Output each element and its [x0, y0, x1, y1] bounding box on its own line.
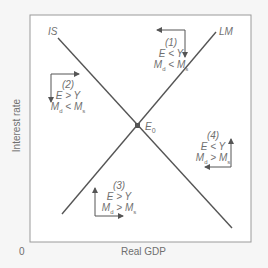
equilibrium-point [135, 123, 140, 128]
region-3-text: (3) E > Y Md > Ms [96, 180, 142, 218]
lm-curve-label: LM [219, 26, 233, 37]
y-axis-label: Interest rate [11, 96, 22, 156]
region-1-text: (1) E < Y Md < Ms [148, 37, 194, 75]
is-curve-label: IS [48, 26, 57, 37]
region-2-text: (2) E > Y Md < Ms [45, 79, 91, 117]
region-4-text: (4) E < Y Md > Ms [190, 130, 236, 168]
origin-label: 0 [19, 246, 25, 257]
equilibrium-label: E0 [145, 121, 156, 134]
x-axis-label: Real GDP [121, 246, 166, 257]
